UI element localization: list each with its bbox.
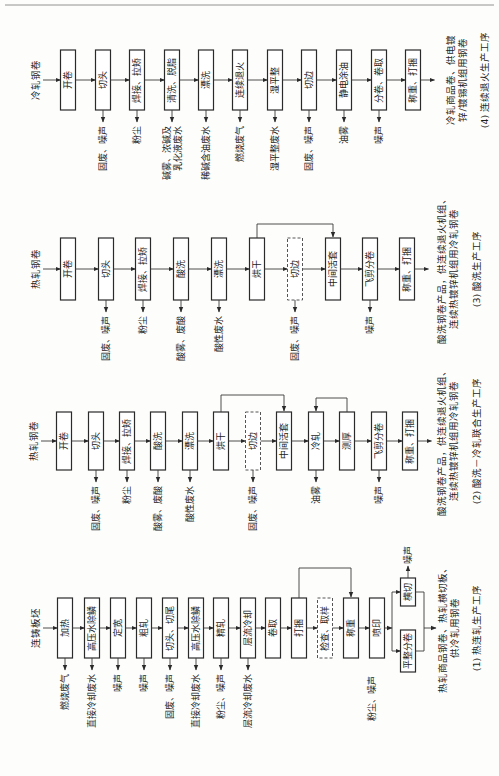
emission-label: 固废、噪声	[164, 674, 175, 719]
emission-text: 噪声	[364, 316, 375, 334]
process-step-label: 切头	[98, 71, 108, 89]
process-step-label: 切头	[101, 260, 111, 278]
process-step-label: 静电涂油	[338, 62, 349, 98]
process-step: 分卷、卷取	[372, 50, 387, 110]
process-step: 焊接、拉矫	[136, 238, 151, 300]
branch-step-label: 平整分卷	[402, 633, 413, 669]
branch-step-label: 横切	[402, 583, 413, 601]
emission-label: 固废、噪声	[97, 126, 108, 171]
process-step: 焊接、拉矫	[120, 412, 135, 470]
output-label: 酸洗钢卷产品，供连续退火机组、连续热镀锌机组用冷轧钢卷	[436, 366, 459, 516]
emission-text: 碱雾、浓碱及	[162, 126, 172, 180]
process-step: 清洗、脱脂	[165, 50, 180, 110]
emission-text: 粉尘	[131, 126, 142, 144]
process-step: 酸洗	[174, 238, 189, 300]
process-step: 高压水除鳞	[85, 598, 100, 658]
process-step-label: 开卷	[62, 260, 73, 278]
process-step: 称重、打捆	[403, 412, 418, 470]
process-step: 漂洗	[199, 50, 214, 110]
process-step-label: 焊接、拉矫	[121, 419, 132, 464]
process-step-label: 中间活套	[327, 251, 338, 287]
process-step-label: 焊接、拉矫	[137, 247, 148, 292]
process-step-label: 开卷	[62, 71, 73, 89]
emission-label: 噪声	[373, 126, 384, 144]
emission-label: 燃烧废气	[59, 674, 70, 710]
process-step: 静电涂油	[337, 50, 352, 110]
output-text: 连续热镀锌机组用冷轧钢卷	[448, 381, 459, 501]
emission-text: 油雾	[310, 486, 321, 504]
process-step: 飞剪分卷	[372, 412, 387, 470]
output-label: 热轧商品钢卷、热轧横切板、供冷轧用钢卷	[437, 563, 460, 693]
output-label: 酸洗钢卷产品，供连续退火机组、连续热镀锌机组用冷轧钢卷	[436, 194, 459, 344]
emission-label: 酸雾、废酸	[152, 486, 163, 531]
process-step: 粗轧	[137, 598, 152, 658]
process-step: 测厚	[340, 412, 355, 470]
process-step-label: 打捆	[293, 619, 304, 637]
process-step: 加热	[58, 598, 73, 658]
emission-text: 湿平整废水	[269, 126, 280, 171]
process-step-label: 测厚	[342, 432, 352, 450]
emission-label: 粉尘	[137, 316, 148, 334]
process-step: 开卷	[61, 238, 76, 300]
process-step: 切边	[288, 238, 303, 300]
emission-label: 固废、噪声	[100, 316, 111, 361]
emission-text: 燃烧废气	[234, 126, 245, 162]
emission-label: 噪声	[112, 674, 123, 692]
process-step-label: 检查、取样	[319, 606, 330, 651]
branch-step: 平整分卷	[401, 630, 416, 672]
process-step: 层流冷却	[241, 598, 256, 658]
process-step-label: 切头	[91, 432, 101, 450]
process-step: 打捆	[292, 598, 307, 658]
process-step-label: 粗轧	[138, 619, 149, 637]
process-step: 酸洗	[151, 412, 166, 470]
process-step-label: 开卷	[58, 432, 69, 450]
emission-label: 油雾	[338, 126, 349, 144]
process-step: 飞剪分卷	[363, 238, 378, 300]
process-step-label: 定宽	[112, 619, 123, 637]
emission-label: 噪声	[138, 674, 149, 692]
emission-label: 稀碱含油废水	[200, 126, 211, 180]
process-step-label: 喷印	[371, 619, 382, 637]
emission-label: 固废、噪声	[247, 486, 258, 531]
process-step: 烘干	[214, 412, 229, 470]
emission-label: 固废、噪声	[289, 316, 300, 361]
process-step-label: 酸洗	[152, 432, 163, 450]
process-step: 切边	[246, 412, 261, 470]
emission-text: 乳化液废水	[172, 126, 183, 171]
emission-text: 稀碱含油废水	[200, 126, 211, 180]
output-text: 锌/镀锡机组用钢卷	[457, 38, 468, 121]
process-step: 切头	[89, 412, 104, 470]
process-step-label: 精轧	[215, 619, 226, 637]
diagram-caption: (3) 酸洗生产工序	[471, 231, 482, 307]
process-step-label: 称重、打捆	[404, 419, 415, 464]
output-text: 酸洗钢卷产品，供连续退火机组、	[436, 366, 447, 516]
process-step-label: 高压水除鳞	[86, 606, 97, 651]
output-label: 冷轧商品卷、供电镀锌/镀锡机组用钢卷	[445, 35, 468, 125]
emission-label: 酸性废水	[213, 316, 224, 352]
process-step-label: 焊接、拉矫	[131, 58, 142, 103]
emission-label: 直接冷却废水	[86, 674, 97, 728]
process-step: 开卷	[57, 412, 72, 470]
output-text: 热轧商品钢卷、热轧横切板、	[437, 563, 448, 693]
emission-text: 固废、噪声	[164, 674, 175, 719]
process-step: 切头	[99, 238, 114, 300]
emission-label: 噪声	[364, 316, 375, 334]
process-step-label: 切边	[248, 432, 258, 450]
process-step: 称重、打捆	[400, 238, 415, 300]
emission-text: 固废、噪声	[303, 126, 314, 171]
process-step: 称重、打捆	[406, 50, 421, 110]
process-step-label: 酸洗	[175, 260, 186, 278]
emission-text: 粉尘	[137, 316, 148, 334]
emission-text: 酸雾、废酸	[152, 486, 163, 531]
process-step-label: 高压水除鳞	[190, 606, 201, 651]
output-text: 酸洗钢卷产品，供连续退火机组、	[436, 194, 447, 344]
emission-text: 粉尘、噪声	[366, 676, 377, 721]
flow-diagram-2: 热轧钢卷开卷切头固废、噪声焊接、拉矫粉尘酸洗酸雾、废酸漂洗酸性废水烘干切边固废、…	[28, 366, 482, 531]
process-step-label: 层流冷却	[242, 610, 253, 646]
output-text: 冷轧商品卷、供电镀	[445, 35, 456, 125]
diagram-caption: (4) 连续退火生产工序	[479, 32, 490, 128]
flow-diagram-1: 连铸板坯加热燃烧废气高压水除鳞直接冷却废水定宽噪声粗轧噪声切头、切尾固废、噪声高…	[30, 546, 482, 728]
emission-label: 油雾	[310, 486, 321, 504]
emission-label: 层流冷却废水	[242, 674, 253, 728]
emission-text: 固废、噪声	[247, 486, 258, 531]
